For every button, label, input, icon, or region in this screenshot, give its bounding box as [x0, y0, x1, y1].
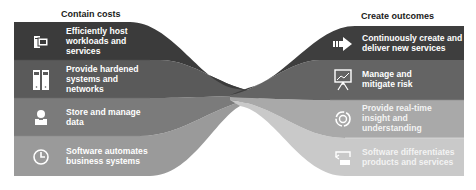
- clock-icon: [30, 146, 52, 168]
- user-data-icon: [30, 107, 52, 129]
- left-item-hardened-systems: Provide hardened systems and networks: [30, 64, 139, 96]
- left-item-label: Software automates business systems: [66, 147, 148, 167]
- right-column-title: Create outcomes: [361, 11, 434, 21]
- right-item-mitigate-risk: Manage and mitigate risk: [332, 68, 413, 92]
- left-item-label: Store and manage data: [66, 108, 141, 128]
- server-racks-icon: [30, 69, 52, 91]
- target-cycle-icon: [332, 108, 354, 130]
- presentation-chart-icon: [332, 69, 354, 91]
- server-workstation-icon: [30, 31, 52, 53]
- left-item-label: Efficiently host workloads and services: [66, 27, 128, 56]
- product-services-icon: [332, 147, 354, 169]
- left-item-host-workloads: Efficiently host workloads and services: [30, 26, 128, 58]
- left-item-label: Provide hardened systems and networks: [66, 65, 139, 94]
- right-item-label: Provide real-time insight and understand…: [362, 104, 432, 133]
- right-item-realtime-insight: Provide real-time insight and understand…: [332, 104, 432, 134]
- right-item-differentiate-products: Software differentiates products and ser…: [332, 146, 455, 170]
- right-item-deliver-services: Continuously create and deliver new serv…: [332, 33, 462, 55]
- left-item-automate-systems: Software automates business systems: [30, 145, 148, 169]
- left-item-store-data: Store and manage data: [30, 106, 141, 130]
- right-item-label: Software differentiates products and ser…: [362, 148, 455, 168]
- right-item-label: Manage and mitigate risk: [362, 70, 413, 90]
- arrow-forward-icon: [332, 33, 354, 55]
- right-item-label: Continuously create and deliver new serv…: [362, 34, 462, 54]
- cost-to-outcome-diagram: Contain costs Create outcomes Efficientl…: [0, 0, 476, 190]
- left-column-title: Contain costs: [61, 9, 121, 19]
